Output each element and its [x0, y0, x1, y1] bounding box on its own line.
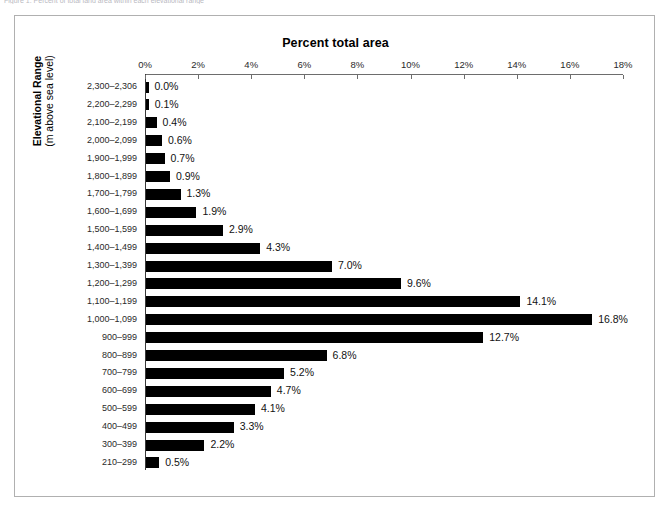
bar-row: 400–4993.3%: [145, 418, 623, 436]
bar: [146, 82, 149, 93]
figure-frame: Percent total area Elevational Range (m …: [14, 15, 655, 497]
bar: [146, 278, 401, 289]
bar-row: 2,200–2,2990.1%: [145, 96, 623, 114]
category-label: 1,300–1,399: [17, 260, 137, 270]
bar: [146, 314, 592, 325]
bar-value-label: 7.0%: [338, 259, 362, 271]
bar-row: 2,100–2,1990.4%: [145, 114, 623, 132]
category-label: 2,200–2,299: [17, 99, 137, 109]
bar: [146, 296, 520, 307]
category-label: 800–899: [17, 350, 137, 360]
bar: [146, 243, 260, 254]
bar-row: 500–5994.1%: [145, 400, 623, 418]
bar: [146, 440, 204, 451]
x-tick-label: 6%: [297, 59, 311, 70]
bar-row: 800–8996.8%: [145, 347, 623, 365]
bar-row: 1,900–1,9990.7%: [145, 150, 623, 168]
category-label: 1,400–1,499: [17, 242, 137, 252]
bar-value-label: 1.3%: [187, 187, 211, 199]
category-label: 1,700–1,799: [17, 188, 137, 198]
bar-value-label: 16.8%: [598, 313, 628, 325]
bar-value-label: 1.9%: [202, 205, 226, 217]
bar-row: 900–99912.7%: [145, 329, 623, 347]
bar-row: 1,700–1,7991.3%: [145, 185, 623, 203]
category-label: 1,900–1,999: [17, 153, 137, 163]
bar: [146, 404, 255, 415]
category-label: 210–299: [17, 457, 137, 467]
bar-value-label: 0.4%: [163, 116, 187, 128]
bar-value-label: 12.7%: [489, 331, 519, 343]
bar-value-label: 2.9%: [229, 223, 253, 235]
category-label: 2,100–2,199: [17, 117, 137, 127]
category-label: 1,600–1,699: [17, 206, 137, 216]
bar: [146, 225, 223, 236]
bar-row: 1,600–1,6991.9%: [145, 203, 623, 221]
category-label: 1,100–1,199: [17, 296, 137, 306]
category-label: 700–799: [17, 367, 137, 377]
bar-row: 300–3992.2%: [145, 436, 623, 454]
bar-value-label: 14.1%: [526, 295, 556, 307]
category-label: 1,200–1,299: [17, 278, 137, 288]
bar: [146, 422, 234, 433]
bar: [146, 189, 181, 200]
bar: [146, 99, 149, 110]
x-tick-label: 4%: [244, 59, 258, 70]
category-label: 400–499: [17, 421, 137, 431]
bar-row: 1,200–1,2999.6%: [145, 275, 623, 293]
bar-row: 600–6994.7%: [145, 382, 623, 400]
x-tick-label: 12%: [454, 59, 473, 70]
bar: [146, 457, 159, 468]
category-label: 1,500–1,599: [17, 224, 137, 234]
x-tick-label: 14%: [507, 59, 526, 70]
bar-value-label: 6.8%: [333, 349, 357, 361]
chart-title: Percent total area: [15, 36, 656, 50]
x-tick: [623, 75, 624, 79]
bar-row: 1,800–1,8990.9%: [145, 168, 623, 186]
category-label: 1,000–1,099: [17, 314, 137, 324]
bar-row: 210–2990.5%: [145, 454, 623, 472]
bar-value-label: 0.5%: [165, 456, 189, 468]
x-tick-label: 10%: [401, 59, 420, 70]
bar-row: 1,300–1,3997.0%: [145, 257, 623, 275]
bar-value-label: 2.2%: [210, 438, 234, 450]
bar: [146, 368, 284, 379]
category-label: 1,800–1,899: [17, 171, 137, 181]
bar: [146, 153, 165, 164]
bar-value-label: 0.1%: [155, 98, 179, 110]
bar-value-label: 3.3%: [240, 420, 264, 432]
category-label: 2,000–2,099: [17, 135, 137, 145]
bar-value-label: 4.3%: [266, 241, 290, 253]
bar-value-label: 0.9%: [176, 170, 200, 182]
bar-value-label: 0.7%: [171, 152, 195, 164]
x-axis-line: [145, 74, 623, 75]
bar-value-label: 4.1%: [261, 402, 285, 414]
category-label: 600–699: [17, 385, 137, 395]
bar: [146, 207, 196, 218]
bar-row: 1,000–1,09916.8%: [145, 311, 623, 329]
plot-area: 0%2%4%6%8%10%12%14%16%18% 2,300–2,3060.0…: [145, 74, 623, 470]
bar: [146, 332, 483, 343]
bar: [146, 135, 162, 146]
category-label: 300–399: [17, 439, 137, 449]
figure-caption-text: Figure 1. Percent of total land area wit…: [4, 0, 667, 4]
bar-row: 1,100–1,19914.1%: [145, 293, 623, 311]
x-tick-label: 0%: [138, 59, 152, 70]
bar: [146, 171, 170, 182]
x-tick-label: 16%: [560, 59, 579, 70]
x-tick-label: 8%: [351, 59, 365, 70]
bar: [146, 386, 271, 397]
bar-value-label: 0.0%: [155, 80, 179, 92]
bar-value-label: 0.6%: [168, 134, 192, 146]
bar-value-label: 5.2%: [290, 366, 314, 378]
bar: [146, 261, 332, 272]
bar-row: 1,500–1,5992.9%: [145, 221, 623, 239]
category-label: 2,300–2,306: [17, 81, 137, 91]
bar-row: 2,000–2,0990.6%: [145, 132, 623, 150]
bar-row: 700–7995.2%: [145, 364, 623, 382]
bar-row: 2,300–2,3060.0%: [145, 78, 623, 96]
x-tick-label: 18%: [613, 59, 632, 70]
bar-value-label: 4.7%: [277, 384, 301, 396]
figure-caption-clipped: Figure 1. Percent of total land area wit…: [0, 0, 667, 4]
category-label: 900–999: [17, 332, 137, 342]
x-tick-label: 2%: [191, 59, 205, 70]
